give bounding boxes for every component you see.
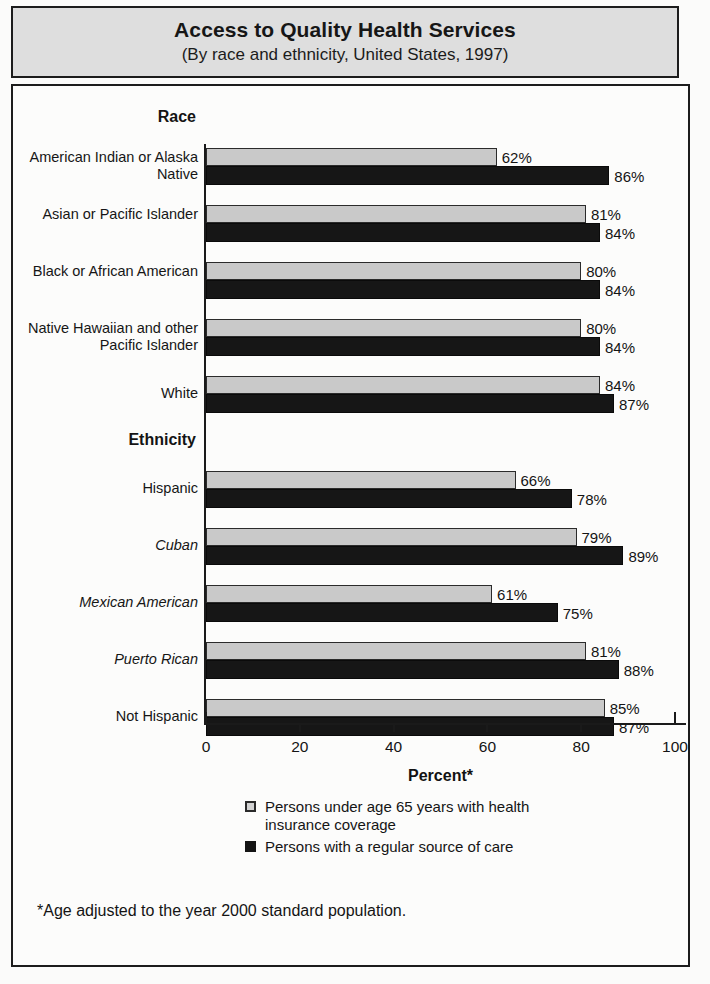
chart-page: Access to Quality Health Services (By ra… bbox=[0, 0, 710, 984]
bar-value-label: 66% bbox=[521, 472, 551, 489]
category-label: Asian or Pacific Islander bbox=[0, 206, 198, 223]
bar-regular-source-of-care bbox=[206, 603, 558, 622]
bar-value-label: 84% bbox=[605, 282, 635, 299]
bar-value-label: 61% bbox=[497, 586, 527, 603]
bar-regular-source-of-care bbox=[206, 660, 619, 679]
chart-subtitle: (By race and ethnicity, United States, 1… bbox=[13, 45, 677, 65]
bar-value-label: 85% bbox=[610, 700, 640, 717]
bar-insurance-coverage bbox=[206, 528, 577, 546]
bar-regular-source-of-care bbox=[206, 489, 572, 508]
footnote: *Age adjusted to the year 2000 standard … bbox=[37, 902, 406, 920]
chart-header: Access to Quality Health Services (By ra… bbox=[11, 6, 679, 78]
bar-value-label: 81% bbox=[591, 206, 621, 223]
bar-regular-source-of-care bbox=[206, 394, 614, 413]
section-heading-ethnicity: Ethnicity bbox=[16, 431, 196, 449]
x-axis-tick-label: 80 bbox=[556, 738, 606, 756]
bar-regular-source-of-care bbox=[206, 223, 600, 242]
x-axis-tick bbox=[580, 725, 582, 732]
legend-swatch-light bbox=[245, 801, 256, 812]
bar-insurance-coverage bbox=[206, 262, 581, 280]
bar-insurance-coverage bbox=[206, 471, 516, 489]
legend-swatch-dark bbox=[245, 841, 256, 852]
category-label: Not Hispanic bbox=[0, 708, 198, 725]
x-axis-tick-label: 0 bbox=[181, 738, 231, 756]
bar-value-label: 86% bbox=[614, 168, 644, 185]
bar-insurance-coverage bbox=[206, 585, 492, 603]
bar-regular-source-of-care bbox=[206, 280, 600, 299]
bar-value-label: 81% bbox=[591, 643, 621, 660]
legend-label: Persons under age 65 years with health i… bbox=[265, 798, 555, 834]
bar-value-label: 62% bbox=[502, 149, 532, 166]
bar-value-label: 80% bbox=[586, 263, 616, 280]
bar-value-label: 84% bbox=[605, 339, 635, 356]
x-axis-tick-label: 100 bbox=[650, 738, 700, 756]
bar-regular-source-of-care bbox=[206, 166, 609, 185]
bar-value-label: 78% bbox=[577, 491, 607, 508]
x-axis-tick-label: 60 bbox=[462, 738, 512, 756]
bar-value-label: 89% bbox=[628, 548, 658, 565]
bar-regular-source-of-care bbox=[206, 717, 614, 736]
x-axis-tick bbox=[205, 712, 207, 725]
legend-item: Persons under age 65 years with health i… bbox=[245, 798, 665, 834]
y-axis-spine bbox=[204, 144, 206, 723]
x-axis-tick-label: 20 bbox=[275, 738, 325, 756]
x-axis-tick bbox=[393, 725, 395, 732]
x-axis-tick bbox=[486, 725, 488, 732]
category-label: Black or African American bbox=[0, 263, 198, 280]
bar-insurance-coverage bbox=[206, 205, 586, 223]
x-axis-line bbox=[204, 723, 686, 725]
bar-value-label: 88% bbox=[624, 662, 654, 679]
chart-legend: Persons under age 65 years with health i… bbox=[245, 798, 665, 860]
bar-value-label: 87% bbox=[619, 396, 649, 413]
bar-regular-source-of-care bbox=[206, 337, 600, 356]
x-axis-tick bbox=[674, 712, 676, 725]
category-label: Native Hawaiian and other Pacific Island… bbox=[0, 320, 198, 354]
x-axis-title: Percent* bbox=[166, 767, 710, 785]
bar-insurance-coverage bbox=[206, 148, 497, 166]
bar-value-label: 84% bbox=[605, 225, 635, 242]
bar-value-label: 79% bbox=[582, 529, 612, 546]
x-axis-tick-label: 40 bbox=[369, 738, 419, 756]
x-axis-tick bbox=[299, 725, 301, 732]
legend-label: Persons with a regular source of care bbox=[265, 838, 513, 856]
bar-regular-source-of-care bbox=[206, 546, 623, 565]
bar-insurance-coverage bbox=[206, 642, 586, 660]
bar-value-label: 87% bbox=[619, 719, 649, 736]
category-label: Mexican American bbox=[0, 594, 198, 611]
bar-insurance-coverage bbox=[206, 319, 581, 337]
section-heading-race: Race bbox=[16, 108, 196, 126]
bar-insurance-coverage bbox=[206, 376, 600, 394]
category-label: Hispanic bbox=[0, 480, 198, 497]
bar-value-label: 80% bbox=[586, 320, 616, 337]
chart-body: RaceAmerican Indian or Alaska Native62%8… bbox=[11, 84, 690, 967]
legend-item: Persons with a regular source of care bbox=[245, 838, 665, 856]
bar-value-label: 84% bbox=[605, 377, 635, 394]
category-label: American Indian or Alaska Native bbox=[0, 149, 198, 183]
category-label: Puerto Rican bbox=[0, 651, 198, 668]
category-label: Cuban bbox=[0, 537, 198, 554]
bar-insurance-coverage bbox=[206, 699, 605, 717]
bar-value-label: 75% bbox=[563, 605, 593, 622]
page-title: Access to Quality Health Services bbox=[13, 18, 677, 42]
category-label: White bbox=[0, 385, 198, 402]
